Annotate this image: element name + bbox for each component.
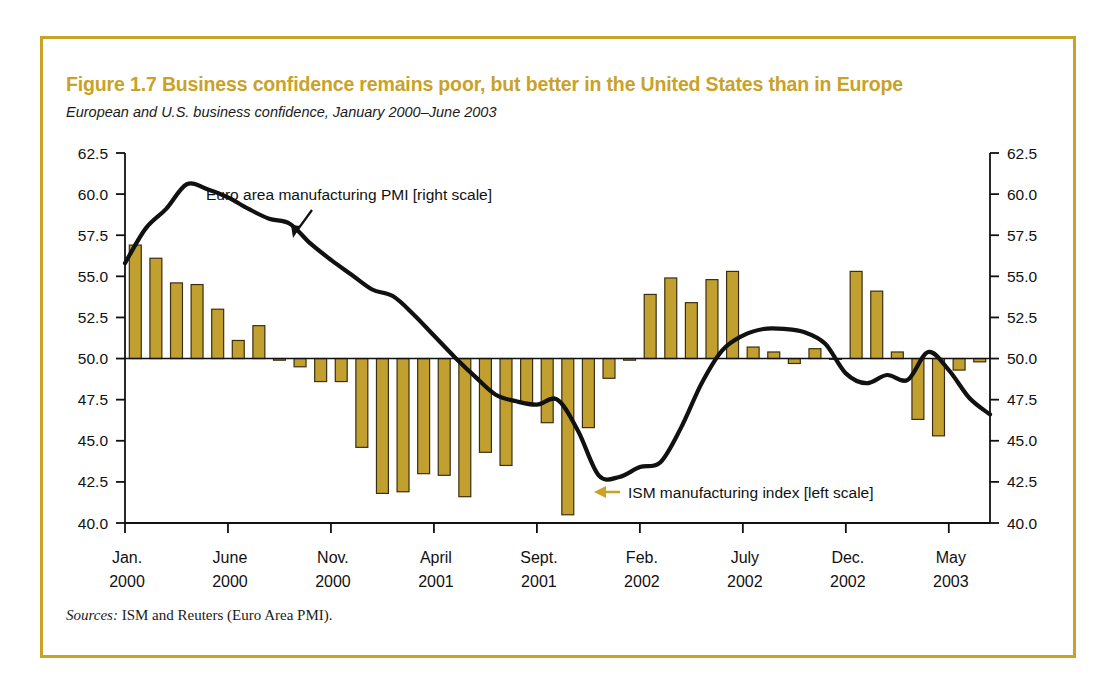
ism-bar	[459, 359, 471, 497]
ism-bar	[171, 283, 183, 359]
ism-bar	[129, 245, 141, 358]
ism-bar	[685, 303, 697, 359]
figure-source-note: Sources: ISM and Reuters (Euro Area PMI)…	[66, 607, 966, 624]
x-tick-month: Dec.	[831, 549, 864, 566]
y-tick-label-left: 42.5	[78, 473, 108, 490]
ism-bar	[603, 359, 615, 379]
ism-bar	[521, 359, 533, 403]
x-tick-year: 2001	[521, 573, 557, 590]
source-label: Sources:	[66, 607, 118, 623]
ism-bar	[871, 291, 883, 358]
chart-plot: 40.042.545.047.550.052.555.057.560.062.5…	[0, 0, 1119, 698]
ism-bar	[706, 280, 718, 359]
ism-bar	[253, 326, 265, 359]
y-tick-label-right: 55.0	[1007, 268, 1038, 285]
y-tick-label-left: 40.0	[78, 515, 109, 532]
ism-bar	[356, 359, 368, 448]
x-tick-month: July	[731, 549, 759, 566]
pmi-annotation-label: Euro area manufacturing PMI [right scale…	[206, 186, 492, 203]
ism-bar	[665, 278, 677, 359]
ism-bar	[294, 359, 306, 367]
y-tick-label-left: 47.5	[78, 391, 108, 408]
ism-bar	[850, 271, 862, 358]
ism-bar	[562, 359, 574, 515]
y-tick-label-left: 50.0	[78, 350, 109, 367]
x-tick-month: June	[213, 549, 248, 566]
x-tick-year: 2000	[315, 573, 351, 590]
x-tick-year: 2002	[830, 573, 866, 590]
ism-bar	[315, 359, 327, 382]
x-axis-ticks	[125, 523, 949, 533]
x-tick-month: Feb.	[626, 549, 658, 566]
x-tick-year: 2003	[933, 573, 969, 590]
ism-bar	[376, 359, 388, 494]
y-tick-label-right: 50.0	[1007, 350, 1038, 367]
ism-bar	[335, 359, 347, 382]
y-tick-label-right: 45.0	[1007, 432, 1038, 449]
ism-bar	[191, 285, 203, 359]
y-tick-label-right: 47.5	[1007, 391, 1037, 408]
x-tick-month: Jan.	[112, 549, 142, 566]
ism-bar	[809, 349, 821, 359]
x-tick-year: 2000	[212, 573, 248, 590]
y-axis-left-ticks: 40.042.545.047.550.052.555.057.560.062.5	[78, 145, 125, 532]
y-tick-label-right: 57.5	[1007, 227, 1037, 244]
x-tick-month: Nov.	[317, 549, 349, 566]
ism-bar	[582, 359, 594, 428]
x-tick-month: May	[936, 549, 966, 566]
y-axis-right-ticks: 40.042.545.047.550.052.555.057.560.062.5	[990, 145, 1038, 532]
y-tick-label-right: 40.0	[1007, 515, 1038, 532]
ism-bar	[479, 359, 491, 453]
y-tick-label-left: 60.0	[78, 186, 109, 203]
figure-container: Figure 1.7 Business confidence remains p…	[0, 0, 1119, 698]
ism-bar	[747, 347, 759, 359]
y-tick-label-right: 62.5	[1007, 145, 1037, 162]
ism-bar	[232, 340, 244, 358]
ism-bar	[933, 359, 945, 436]
source-text: ISM and Reuters (Euro Area PMI).	[118, 607, 333, 623]
x-tick-year: 2002	[624, 573, 660, 590]
ism-bar	[438, 359, 450, 476]
ism-bar	[953, 359, 965, 371]
y-tick-label-left: 57.5	[78, 227, 108, 244]
ism-annotation-arrowhead-icon	[594, 486, 606, 498]
ism-bar	[397, 359, 409, 492]
y-tick-label-left: 62.5	[78, 145, 108, 162]
pmi-annotation-group: Euro area manufacturing PMI [right scale…	[206, 186, 492, 238]
x-tick-month: April	[420, 549, 452, 566]
x-tick-year: 2002	[727, 573, 763, 590]
ism-annotation-label: ISM manufacturing index [left scale]	[628, 484, 874, 501]
ism-bar	[418, 359, 430, 474]
y-tick-label-right: 52.5	[1007, 309, 1037, 326]
x-axis-tick-labels: Jan.2000June2000Nov.2000April2001Sept.20…	[109, 549, 969, 590]
ism-bar	[212, 309, 224, 358]
ism-bar	[644, 294, 656, 358]
ism-bar	[150, 258, 162, 358]
ism-bar	[891, 352, 903, 359]
x-tick-month: Sept.	[520, 549, 557, 566]
x-tick-year: 2000	[109, 573, 145, 590]
y-tick-label-left: 45.0	[78, 432, 109, 449]
ism-bar	[768, 352, 780, 359]
x-tick-year: 2001	[418, 573, 454, 590]
ism-bar	[541, 359, 553, 423]
y-tick-label-left: 55.0	[78, 268, 109, 285]
y-tick-label-right: 60.0	[1007, 186, 1038, 203]
ism-bar	[500, 359, 512, 466]
y-tick-label-left: 52.5	[78, 309, 108, 326]
y-tick-label-right: 42.5	[1007, 473, 1037, 490]
ism-annotation-group: ISM manufacturing index [left scale]	[594, 484, 874, 501]
